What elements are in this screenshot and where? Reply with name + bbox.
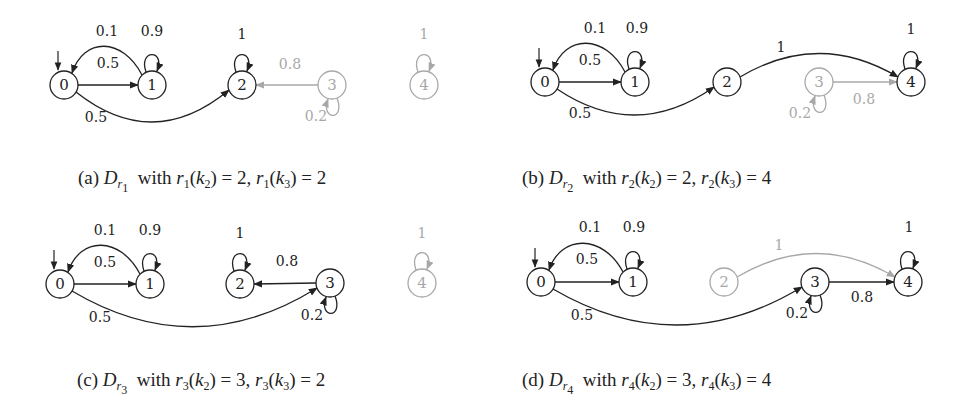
edge-probability-label: 0.8 [276, 253, 298, 269]
edge-4-to-4 [901, 252, 915, 269]
figure: 0.50.10.90.510.80.21012340.50.10.90.510.… [0, 0, 962, 402]
state-label: 0 [55, 275, 65, 293]
state-node-4: 4 [894, 268, 922, 296]
caption-c: (c) Dr3 with r3(k2) = 3, r3(k3) = 2 [77, 369, 325, 391]
state-label: 3 [327, 76, 337, 94]
markov-chain-diagrams: 0.50.10.90.510.80.21012340.50.10.90.510.… [0, 0, 962, 402]
edge-probability-label: 0.9 [623, 219, 645, 235]
edge-1-to-1 [145, 55, 159, 72]
edge-probability-label: 0.5 [94, 254, 116, 270]
edge-probability-label: 1 [907, 21, 916, 37]
state-node-3: 3 [801, 268, 829, 296]
state-label: 2 [235, 275, 245, 293]
edge-probability-label: 1 [905, 219, 914, 235]
state-label: 4 [419, 76, 429, 94]
edge-probability-label: 0.1 [96, 23, 118, 39]
state-node-1: 1 [619, 268, 647, 296]
edge-probability-label: 0.5 [576, 251, 598, 267]
edge-3-to-2 [254, 283, 316, 284]
state-label: 4 [903, 273, 913, 291]
state-label: 1 [147, 76, 157, 94]
panel-d: 0.50.10.90.510.80.2101234 [527, 219, 922, 325]
state-label: 1 [630, 73, 640, 91]
state-node-0: 0 [50, 51, 78, 99]
edge-3-to-3 [813, 95, 825, 112]
edge-4-to-4 [415, 253, 429, 270]
edge-probability-label: 1 [238, 26, 247, 42]
state-node-1: 1 [621, 68, 649, 96]
caption-a: (a) Dr1 with r1(k2) = 2, r1(k3) = 2 [78, 167, 326, 189]
edge-probability-label: 1 [775, 237, 784, 253]
edge-2-to-2 [235, 55, 249, 72]
edge-3-to-3 [324, 296, 336, 313]
edge-probability-label: 1 [777, 39, 786, 55]
state-node-3: 3 [805, 68, 833, 96]
edge-probability-label: 0.8 [853, 91, 875, 107]
edge-probability-label: 0.5 [571, 307, 593, 323]
state-node-2: 2 [710, 268, 738, 296]
caption-b: (b) Dr2 with r2(k2) = 2, r2(k3) = 4 [522, 167, 771, 189]
edge-probability-label: 0.2 [305, 108, 327, 124]
panel-a: 0.50.10.90.510.80.2101234 [50, 23, 438, 125]
edge-probability-label: 0.2 [789, 105, 811, 121]
panel-c: 0.50.10.90.510.80.2101234 [46, 222, 436, 327]
edge-probability-label: 0.9 [139, 222, 161, 238]
state-node-0: 0 [531, 48, 559, 96]
edge-2-to-2 [233, 254, 247, 271]
edge-probability-label: 0.5 [579, 52, 601, 68]
state-node-4: 4 [897, 68, 925, 96]
edge-4-to-4 [904, 52, 918, 69]
state-label: 0 [536, 273, 546, 291]
edge-probability-label: 0.5 [85, 109, 107, 125]
edge-probability-label: 0.5 [569, 105, 591, 121]
edge-probability-label: 0.2 [786, 305, 808, 321]
edge-1-to-1 [143, 254, 157, 271]
panel-b: 0.50.10.90.510.80.2101234 [531, 20, 925, 121]
edge-4-to-4 [417, 55, 431, 72]
edge-probability-label: 0.9 [626, 20, 648, 36]
state-label: 2 [722, 73, 732, 91]
state-node-2: 2 [226, 270, 254, 298]
edge-probability-label: 0.1 [94, 222, 116, 238]
edge-3-to-3 [809, 295, 821, 312]
state-node-3: 3 [316, 269, 344, 297]
state-label: 2 [719, 273, 729, 291]
state-node-3: 3 [318, 71, 346, 99]
state-label: 3 [814, 73, 824, 91]
edge-probability-label: 1 [420, 26, 429, 42]
edge-3-to-3 [326, 98, 338, 115]
edge-probability-label: 0.5 [97, 55, 119, 71]
state-node-0: 0 [46, 250, 74, 298]
edge-probability-label: 0.2 [301, 307, 323, 323]
state-label: 4 [906, 73, 916, 91]
state-node-4: 4 [408, 269, 436, 297]
caption-d: (d) Dr4 with r4(k2) = 3, r4(k3) = 4 [522, 369, 771, 391]
state-label: 2 [237, 76, 247, 94]
state-label: 1 [628, 273, 638, 291]
state-node-4: 4 [410, 71, 438, 99]
edge-probability-label: 1 [418, 225, 427, 241]
edge-1-to-1 [626, 252, 640, 269]
edge-probability-label: 0.8 [851, 289, 873, 305]
state-label: 1 [145, 275, 155, 293]
state-node-0: 0 [527, 248, 555, 296]
state-node-2: 2 [228, 71, 256, 99]
state-label: 3 [810, 273, 820, 291]
state-label: 0 [540, 73, 550, 91]
state-node-1: 1 [136, 270, 164, 298]
edge-probability-label: 0.8 [279, 56, 301, 72]
edge-probability-label: 1 [236, 225, 245, 241]
edge-probability-label: 0.1 [579, 219, 601, 235]
state-label: 4 [417, 274, 427, 292]
state-node-1: 1 [138, 71, 166, 99]
edge-probability-label: 0.5 [89, 309, 111, 325]
edge-probability-label: 0.9 [141, 23, 163, 39]
state-label: 0 [59, 76, 69, 94]
state-node-2: 2 [713, 68, 741, 96]
edge-probability-label: 0.1 [584, 20, 606, 36]
edge-1-to-1 [628, 52, 642, 69]
state-label: 3 [325, 274, 335, 292]
